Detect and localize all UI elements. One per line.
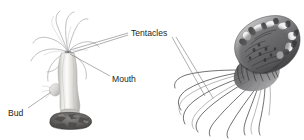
- cnidarian-diagram-figure: Tentacles Mouth Bud: [0, 0, 304, 140]
- diagram-canvas: Tentacles Mouth Bud: [0, 0, 304, 140]
- label-tentacles: Tentacles: [131, 28, 167, 38]
- label-bud: Bud: [8, 108, 24, 118]
- label-mouth: Mouth: [112, 74, 136, 84]
- polyp-substrate-rock: [50, 112, 92, 129]
